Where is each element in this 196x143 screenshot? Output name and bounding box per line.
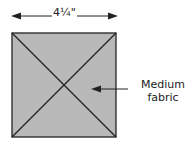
- diagram-canvas: [0, 0, 196, 143]
- arrow-left-icon: [11, 13, 21, 20]
- dimension-label: 4¼": [52, 6, 77, 19]
- callout-line-2: fabric: [141, 91, 185, 104]
- callout-line-1: Medium: [141, 78, 185, 91]
- fabric-callout: Medium fabric: [141, 78, 185, 104]
- arrow-right-icon: [108, 13, 118, 20]
